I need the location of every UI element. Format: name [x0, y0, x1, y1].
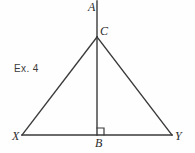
- triangle-diagram-svg: [0, 0, 195, 153]
- vertex-label-a: A: [88, 1, 95, 13]
- side-CX-line: [22, 37, 97, 135]
- side-CY-line: [97, 37, 172, 135]
- vertex-label-y: Y: [175, 130, 182, 142]
- vertex-label-c: C: [100, 25, 108, 37]
- exercise-caption: Ex. 4: [14, 64, 39, 74]
- vertex-label-x: X: [12, 130, 19, 142]
- geometry-figure-exercise-4: A C B X Y Ex. 4: [0, 0, 195, 153]
- vertex-label-b: B: [95, 137, 102, 149]
- right-angle-mark-icon: [97, 128, 104, 135]
